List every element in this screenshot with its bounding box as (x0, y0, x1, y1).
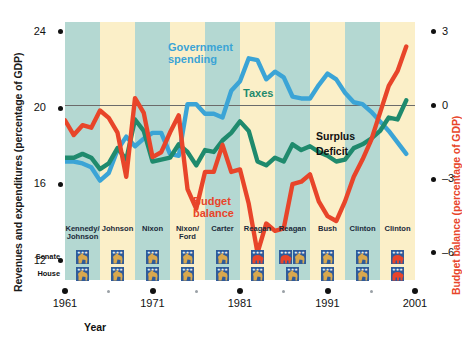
right-tick-label: –3 (442, 172, 454, 184)
x-tick-minor-dot (195, 290, 198, 293)
house-majority-cell: ★★★ (240, 267, 275, 281)
administration-name: Johnson (100, 225, 135, 233)
left-tick-label: 20 (34, 101, 46, 113)
right-tick-label: 3 (442, 25, 448, 37)
administration-name: Carter (205, 225, 240, 233)
senate-majority-cell: ★★★ (205, 250, 240, 264)
administration-column: Clinton★★★★★★ (380, 225, 415, 287)
right-tick-label: 0 (442, 99, 448, 111)
house-majority-cell: ★★★ (170, 267, 205, 281)
series-label-budget-line1: Budget (193, 195, 231, 207)
series-label-spending-line1: Government (168, 41, 233, 53)
administration-name: Reagan (240, 225, 275, 233)
right-tick-dot (431, 177, 436, 182)
left-tick-label: 16 (34, 177, 46, 189)
x-tick-label: 1961 (47, 297, 83, 309)
series-label-spending: Government spending (168, 42, 233, 65)
right-tick-label: –6 (442, 246, 454, 258)
svg-text:★★★: ★★★ (392, 250, 403, 255)
senate-majority-cell: ★★★ (380, 250, 415, 264)
democrat-donkey-icon: ★★★ (216, 250, 229, 264)
house-majority-cell: ★★★ (135, 267, 170, 281)
senate-majority-cell: ★★★ (345, 250, 380, 264)
house-majority-cell: ★★★ (275, 267, 310, 281)
democrat-donkey-icon: ★★★ (146, 250, 159, 264)
senate-majority-cell: ★★★ (170, 250, 205, 264)
administration-name-line: Reagan (244, 224, 271, 233)
senate-majority-cell: ★★★ (310, 250, 345, 264)
republican-elephant-icon: ★★★ (391, 267, 404, 281)
administration-name-line: Reagan (279, 224, 306, 233)
democrat-donkey-icon: ★★★ (111, 267, 124, 281)
administration-name: Clinton (380, 225, 415, 233)
administration-name-line: Clinton (384, 224, 410, 233)
republican-elephant-icon: ★★★ (391, 250, 404, 264)
republican-elephant-icon: ★★★ (279, 250, 292, 264)
administration-column: Nixon/Ford★★★★★★ (170, 225, 205, 287)
right-tick-dot (431, 29, 436, 34)
x-axis-title: Year (84, 321, 106, 333)
label-surplus: Surplus (316, 131, 355, 143)
democrat-donkey-icon: ★★★ (146, 267, 159, 281)
administration-column: Nixon★★★★★★ (135, 225, 170, 287)
democrat-donkey-icon: ★★★ (251, 267, 264, 281)
administration-column: Reagan★★★★★★★★★ (275, 225, 310, 287)
administration-name: Bush (310, 225, 345, 233)
democrat-donkey-icon: ★★★ (111, 250, 124, 264)
house-majority-cell: ★★★ (205, 267, 240, 281)
administration-table: Kennedy/Johnson★★★★★★Johnson★★★★★★Nixon★… (65, 225, 415, 287)
svg-text:★★★: ★★★ (252, 250, 263, 255)
administration-column: Bush★★★★★★ (310, 225, 345, 287)
administration-name: Nixon/Ford (170, 225, 205, 241)
left-tick-dot (58, 106, 63, 111)
x-tick-label: 1981 (222, 297, 258, 309)
house-majority-cell: ★★★ (100, 267, 135, 281)
democrat-donkey-icon: ★★★ (356, 250, 369, 264)
democrat-donkey-icon: ★★★ (76, 267, 89, 281)
republican-elephant-icon: ★★★ (251, 250, 264, 264)
x-tick-minor-dot (107, 290, 110, 293)
right-tick-dot (431, 103, 436, 108)
house-majority-cell: ★★★ (345, 267, 380, 281)
congress-row-labels: Senate House (0, 225, 64, 287)
administration-column: Johnson★★★★★★ (100, 225, 135, 287)
administration-name: Nixon (135, 225, 170, 233)
x-tick-dot (62, 288, 68, 294)
democrat-donkey-icon: ★★★ (181, 250, 194, 264)
administration-column: Carter★★★★★★ (205, 225, 240, 287)
svg-text:★★★: ★★★ (280, 250, 291, 255)
senate-majority-cell: ★★★ (100, 250, 135, 264)
administration-name-line: Carter (211, 224, 233, 233)
x-tick-minor-dot (282, 290, 285, 293)
administration-name-line: Nixon (142, 224, 163, 233)
administration-name-line: Clinton (349, 224, 375, 233)
series-label-taxes: Taxes (243, 88, 273, 100)
administration-name-line: Bush (318, 224, 337, 233)
democrat-donkey-icon: ★★★ (356, 267, 369, 281)
svg-text:★★★: ★★★ (392, 267, 403, 272)
democrat-donkey-icon: ★★★ (293, 250, 306, 264)
administration-column: Kennedy/Johnson★★★★★★ (65, 225, 100, 287)
x-tick-dot (150, 288, 156, 294)
right-axis-title: Budget balance (percentage of GDP) (450, 116, 462, 295)
left-tick-label: 24 (34, 25, 46, 37)
administration-name: Clinton (345, 225, 380, 233)
row-label-house: House (37, 269, 60, 278)
administration-name-line: Ford (179, 232, 196, 241)
x-tick-label: 1971 (135, 297, 171, 309)
x-tick-label: 1991 (310, 297, 346, 309)
democrat-donkey-icon: ★★★ (76, 250, 89, 264)
row-label-senate: Senate (36, 252, 60, 261)
democrat-donkey-icon: ★★★ (321, 267, 334, 281)
democrat-donkey-icon: ★★★ (181, 267, 194, 281)
democrat-donkey-icon: ★★★ (286, 267, 299, 281)
left-tick-dot (58, 29, 63, 34)
series-label-budget-line2: balance (193, 207, 234, 219)
x-tick-dot (412, 288, 418, 294)
democrat-donkey-icon: ★★★ (216, 267, 229, 281)
administration-name-line: Johnson (67, 232, 99, 241)
democrat-donkey-icon: ★★★ (321, 250, 334, 264)
chart-figure: Revenues and expenditures (percentage of… (0, 0, 462, 346)
line-government-spending (65, 58, 406, 180)
senate-majority-cell: ★★★ (135, 250, 170, 264)
